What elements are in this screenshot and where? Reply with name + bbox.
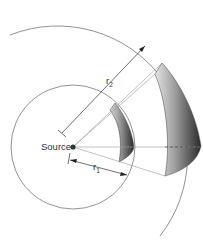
outer-circle-r2 — [10, 26, 188, 236]
r1-arrowhead-right-icon — [120, 172, 127, 176]
ray-upper — [73, 63, 162, 147]
r1-label: r1 — [93, 161, 100, 174]
source-dot-icon — [70, 144, 75, 149]
r1-tick-start — [68, 153, 70, 164]
ray-middle-upper — [73, 74, 155, 147]
r1-arrowhead-left-icon — [70, 159, 77, 163]
inner-area-patch — [110, 103, 134, 162]
inverse-square-law-diagram: Source r2 r1 — [0, 0, 203, 246]
ray-lower — [73, 147, 165, 176]
r2-tick-start — [58, 130, 66, 137]
outer-area-patch — [155, 63, 201, 176]
source-label: Source — [41, 141, 71, 152]
